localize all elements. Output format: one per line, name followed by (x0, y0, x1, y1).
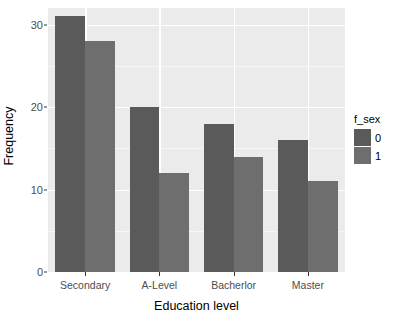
legend-entry: 0 (354, 129, 395, 146)
y-axis-tick-mark (44, 24, 47, 25)
x-axis-tick-label: A-Level (142, 279, 178, 291)
y-axis-title: Frequency (1, 0, 17, 272)
y-axis-tick-label: 0 (17, 266, 43, 278)
bar (85, 41, 115, 272)
x-axis-tick-mark (159, 272, 160, 276)
legend-swatch (354, 147, 371, 164)
x-axis-tick-label: Bacherlor (211, 279, 256, 291)
y-axis-tick-mark (44, 272, 47, 273)
x-axis-tick-label: Secondary (60, 279, 110, 291)
bar (159, 173, 189, 272)
x-axis-tick-mark (85, 272, 86, 276)
legend-title: f_sex (354, 113, 395, 125)
bar (204, 124, 234, 273)
legend-swatch (354, 129, 371, 146)
x-axis-tick-mark (308, 272, 309, 276)
y-axis-tick-labels: 0102030 (17, 0, 43, 324)
bar (308, 181, 338, 272)
y-axis-tick-mark (44, 189, 47, 190)
y-axis-tick-label: 30 (17, 19, 43, 31)
y-axis-tick-label: 10 (17, 184, 43, 196)
bar-chart: Frequency 0102030 SecondaryA-LevelBacher… (0, 0, 395, 324)
legend: f_sex 01 (354, 113, 395, 165)
y-axis-tick-label: 20 (17, 101, 43, 113)
legend-entry: 1 (354, 147, 395, 164)
x-axis-title: Education level (48, 299, 345, 313)
bar (278, 140, 308, 272)
x-axis-tick-label: Master (292, 279, 324, 291)
legend-entries: 01 (354, 129, 395, 164)
y-axis-tick-mark (44, 107, 47, 108)
bar (234, 157, 264, 273)
x-axis-tick-mark (234, 272, 235, 276)
legend-label: 0 (375, 132, 381, 144)
gridline-major-horizontal (48, 25, 345, 26)
bar (55, 16, 85, 272)
plot-panel (48, 8, 345, 272)
bar (130, 107, 160, 272)
legend-label: 1 (375, 150, 381, 162)
